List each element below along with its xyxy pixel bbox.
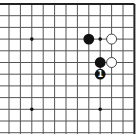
hoshi-point: [30, 108, 34, 112]
black-stone: [83, 34, 94, 45]
move-number-label: 1: [97, 70, 103, 79]
hoshi-point: [98, 108, 102, 112]
black-stone: [95, 57, 106, 68]
black-stone-move-1: 1: [95, 69, 106, 80]
hoshi-point: [30, 37, 34, 41]
white-stone: [107, 34, 117, 44]
board-grid: [0, 4, 134, 134]
white-stone: [107, 58, 117, 68]
hoshi-point: [98, 37, 102, 41]
go-board-diagram: 1: [0, 0, 137, 134]
